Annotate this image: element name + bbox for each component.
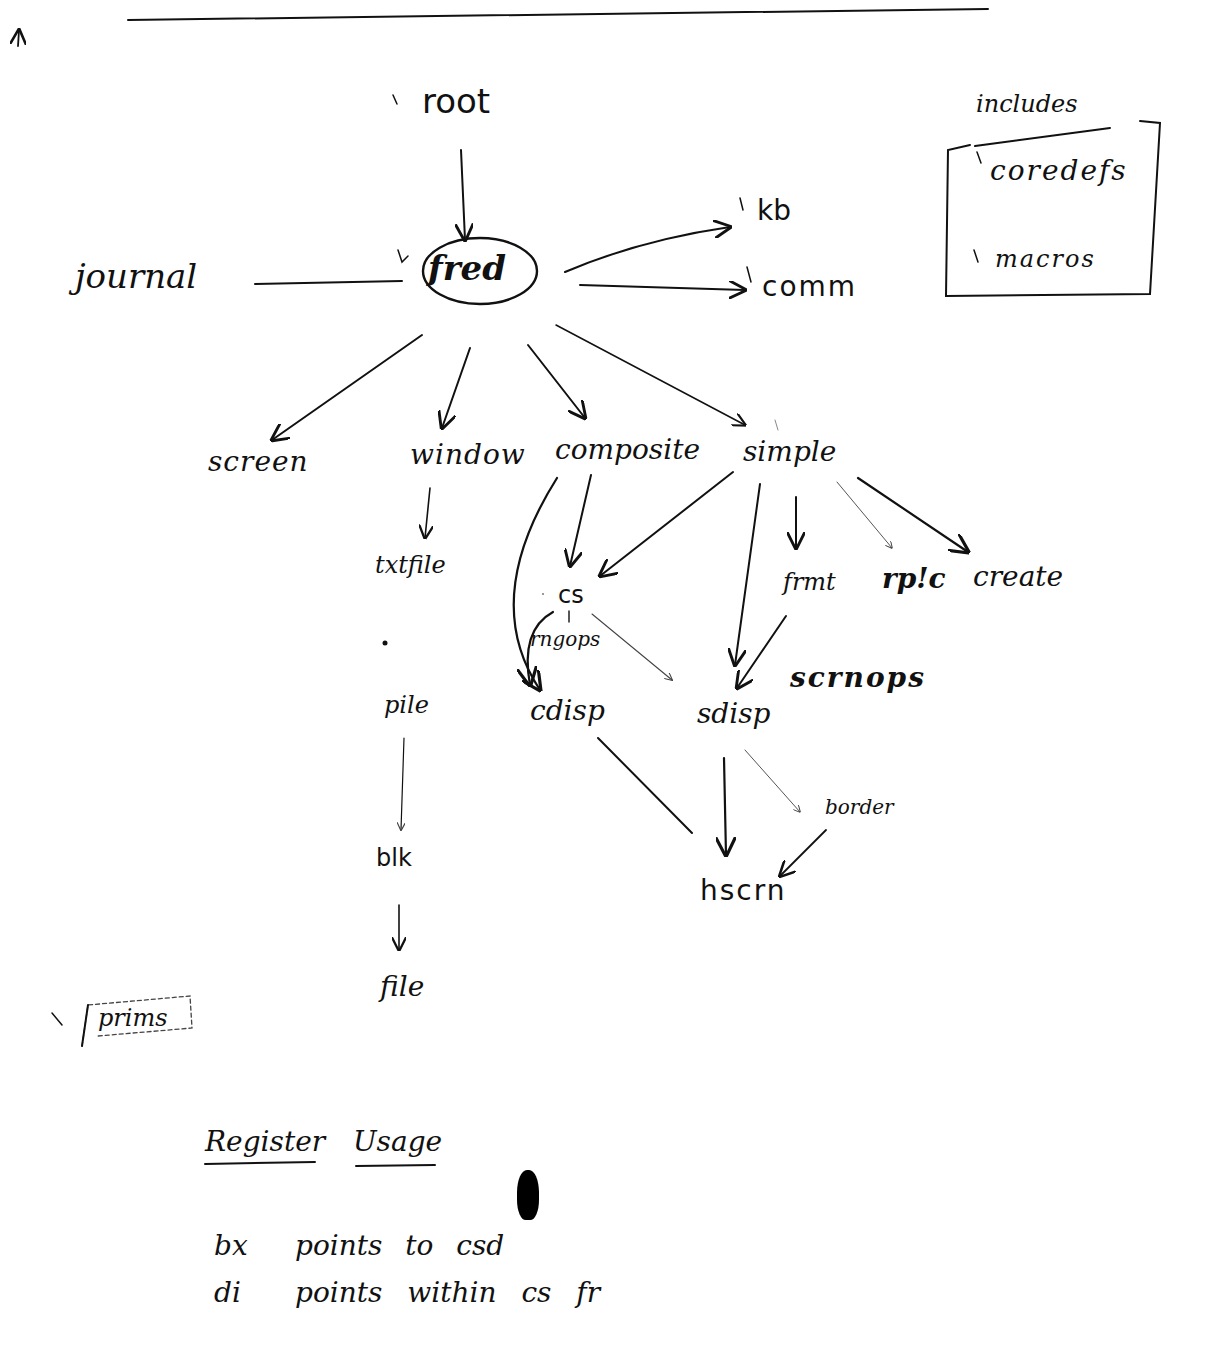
top-rule bbox=[128, 9, 988, 20]
node-kb: kb bbox=[757, 197, 791, 225]
node-hscrn: hscrn bbox=[700, 877, 787, 905]
node-journal: journal bbox=[75, 259, 197, 293]
node-create: create bbox=[973, 563, 1063, 591]
ink-blot bbox=[517, 1170, 539, 1220]
node-scrnops: scrnops bbox=[790, 664, 926, 692]
node-rplc: rp!c bbox=[882, 565, 946, 593]
node-window: window bbox=[410, 441, 526, 469]
node-fred: fred bbox=[428, 251, 506, 285]
node-root: root bbox=[422, 84, 490, 118]
register-title-word2: Usage bbox=[353, 1128, 442, 1156]
register-row-0-desc: points to csd bbox=[295, 1232, 504, 1260]
include-coredefs: coredefs bbox=[990, 157, 1128, 185]
node-cs: cs bbox=[558, 583, 584, 607]
node-sdisp: sdisp bbox=[697, 700, 771, 728]
register-row-1-desc: points within cs fr bbox=[295, 1279, 600, 1307]
node-cdisp: cdisp bbox=[530, 697, 605, 725]
node-frmt: frmt bbox=[783, 570, 836, 594]
node-blk: blk bbox=[376, 846, 412, 870]
node-screen: screen bbox=[208, 448, 309, 476]
node-txtfile: txtfile bbox=[375, 553, 446, 577]
register-row-1-reg: di bbox=[214, 1279, 241, 1307]
node-pile: pile bbox=[384, 693, 429, 717]
node-rngops: rngops bbox=[530, 629, 600, 649]
diagram-canvas: root fred journal kb comm screen window … bbox=[0, 0, 1223, 1349]
register-title-word1: Register bbox=[205, 1128, 325, 1156]
node-prims: prims bbox=[98, 1006, 168, 1030]
node-comm: comm bbox=[762, 273, 857, 301]
node-file: file bbox=[380, 973, 424, 1001]
includes-title: includes bbox=[976, 92, 1078, 116]
node-border: border bbox=[825, 797, 894, 817]
edges-layer bbox=[0, 0, 1223, 1349]
include-macros: macros bbox=[995, 247, 1096, 271]
register-row-0-reg: bx bbox=[214, 1232, 248, 1260]
node-composite: composite bbox=[555, 436, 700, 464]
node-simple: simple bbox=[743, 438, 836, 466]
